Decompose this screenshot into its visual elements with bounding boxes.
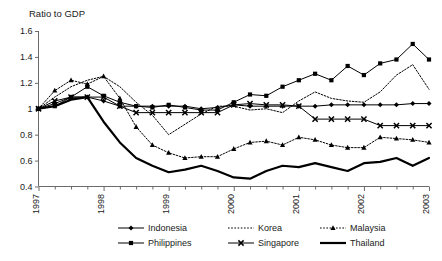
ratio-to-gdp-line-chart: Ratio to GDP 0.40.60.811.21.41.6 1997199…: [0, 0, 442, 261]
x-axis-tick-labels: 1997199819992000200120022003: [31, 194, 432, 214]
series-line: [39, 97, 430, 179]
legend-label: Thailand: [350, 238, 385, 248]
y-tick-label: 0.6: [20, 156, 33, 166]
y-axis-tick-labels: 0.40.60.811.21.41.6: [20, 26, 33, 192]
triangle-marker: [68, 77, 73, 82]
square-marker: [150, 105, 154, 109]
square-marker: [264, 94, 268, 98]
diamond-marker: [394, 102, 399, 107]
triangle-marker: [101, 74, 106, 79]
square-marker: [427, 57, 431, 61]
legend-label: Korea: [258, 223, 282, 233]
square-marker: [313, 72, 317, 76]
series-line: [39, 44, 430, 110]
x-tick-label: 1999: [161, 194, 171, 214]
square-marker: [129, 241, 133, 245]
square-marker: [280, 85, 284, 89]
square-marker: [85, 85, 89, 89]
square-marker: [167, 103, 171, 107]
triangle-marker: [378, 134, 383, 139]
legend-label: Singapore: [258, 238, 299, 248]
legend-item-indonesia: Indonesia: [118, 223, 187, 233]
diamond-marker: [410, 101, 415, 106]
series-philippines: [36, 42, 431, 112]
series-layer: [36, 42, 432, 179]
legend-item-thailand: Thailand: [320, 238, 385, 248]
series-line: [39, 76, 430, 158]
chart-legend: IndonesiaKoreaMalaysiaPhilippinesSingapo…: [118, 223, 386, 248]
square-marker: [297, 78, 301, 82]
x-tick-label: 1997: [31, 194, 41, 214]
x-tick-label: 1998: [96, 194, 106, 214]
square-marker: [134, 104, 138, 108]
x-tick-label: 2003: [421, 194, 431, 214]
diamond-marker: [427, 101, 432, 106]
diamond-marker: [329, 102, 334, 107]
triangle-marker: [296, 134, 301, 139]
square-marker: [248, 92, 252, 96]
y-tick-label: 1.2: [20, 78, 33, 88]
y-tick-label: 0.4: [20, 182, 33, 192]
diamond-marker: [361, 102, 366, 107]
diamond-marker: [129, 226, 134, 231]
legend-label: Indonesia: [148, 223, 187, 233]
legend-item-philippines: Philippines: [118, 238, 192, 248]
diamond-marker: [313, 104, 318, 109]
x-tick-label: 2000: [226, 194, 236, 214]
square-marker: [378, 61, 382, 65]
square-marker: [394, 57, 398, 61]
legend-item-korea: Korea: [228, 223, 282, 233]
square-marker: [329, 78, 333, 82]
triangle-marker: [247, 140, 252, 145]
legend-label: Malaysia: [350, 223, 386, 233]
series-malaysia: [36, 74, 432, 160]
x-tick-label: 2001: [291, 194, 301, 214]
series-singapore: [36, 94, 432, 128]
triangle-marker: [313, 137, 318, 142]
triangle-marker: [264, 138, 269, 143]
square-marker: [362, 73, 366, 77]
chart-container: Ratio to GDP 0.40.60.811.21.41.6 1997199…: [0, 0, 442, 261]
legend-item-singapore: Singapore: [228, 238, 299, 248]
square-marker: [346, 64, 350, 68]
diamond-marker: [378, 102, 383, 107]
diamond-marker: [345, 102, 350, 107]
x-axis-ticks: [39, 187, 430, 192]
y-tick-label: 1: [27, 104, 32, 114]
square-marker: [183, 105, 187, 109]
y-tick-label: 1.4: [20, 52, 33, 62]
y-tick-label: 0.8: [20, 130, 33, 140]
y-axis-title: Ratio to GDP: [29, 8, 85, 19]
x-tick-label: 2002: [356, 194, 366, 214]
y-tick-label: 1.6: [20, 26, 33, 36]
triangle-marker: [426, 140, 431, 145]
legend-item-malaysia: Malaysia: [320, 223, 386, 233]
triangle-marker: [134, 124, 139, 129]
triangle-marker: [52, 88, 57, 93]
legend-label: Philippines: [148, 238, 192, 248]
square-marker: [411, 42, 415, 46]
series-thailand: [39, 97, 430, 179]
